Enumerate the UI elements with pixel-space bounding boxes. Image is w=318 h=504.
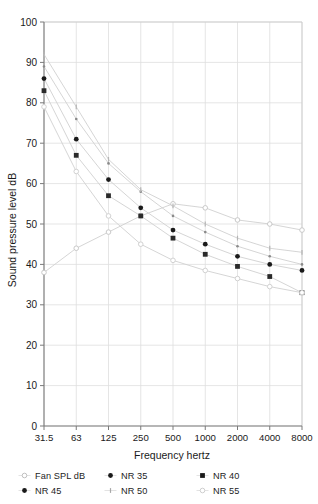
x-tick-labels: 31.5631252505001000200040008000 (35, 432, 313, 443)
y-tick-label: 100 (20, 17, 37, 28)
data-point-marker (172, 215, 175, 218)
legend-marker-icon (104, 471, 117, 480)
data-point-marker (42, 270, 47, 275)
data-point-marker (200, 473, 205, 478)
y-tick-label: 60 (26, 178, 38, 189)
legend-item-label: Fan SPL dB (35, 471, 85, 481)
data-point-marker (267, 222, 272, 227)
data-point-marker (106, 177, 111, 182)
y-tick-label: 70 (26, 138, 38, 149)
legend-item[interactable]: NR 45 (18, 483, 104, 498)
data-point-marker (203, 242, 208, 247)
data-point-marker (203, 252, 208, 257)
data-point-marker (74, 246, 79, 251)
x-tick-label: 500 (165, 432, 181, 443)
y-tick-label: 90 (26, 57, 38, 68)
data-point-marker (42, 105, 47, 110)
legend-item-label: NR 35 (121, 471, 148, 481)
data-point-marker (203, 206, 208, 211)
data-point-marker (74, 137, 79, 142)
x-axis-label: Frequency hertz (134, 449, 210, 461)
y-tick-label: 0 (31, 421, 37, 432)
data-point-marker (22, 488, 27, 493)
data-point-marker (235, 218, 240, 223)
data-point-marker (235, 264, 240, 269)
x-tick-label: 63 (71, 432, 82, 443)
legend-item-label: NR 50 (121, 486, 148, 496)
legend-item[interactable]: NR 35 (104, 468, 196, 483)
y-axis-label: Sound pressure level dB (6, 173, 18, 287)
data-point-marker (42, 76, 47, 81)
data-point-marker (22, 473, 27, 478)
y-tick-label: 30 (26, 299, 38, 310)
data-point-marker (138, 242, 143, 247)
chart-gridlines (44, 22, 302, 426)
legend-item[interactable]: NR 40 (196, 468, 288, 483)
legend-marker-icon (18, 486, 31, 495)
legend-item[interactable]: NR 50 (104, 483, 196, 498)
legend-marker-icon (104, 486, 117, 495)
data-point-marker (200, 488, 205, 493)
data-point-marker (138, 214, 143, 219)
x-tick-label: 125 (100, 432, 116, 443)
data-point-marker (75, 118, 78, 121)
y-tick-label: 10 (26, 380, 38, 391)
x-tick-marks (44, 426, 302, 430)
noise-rating-chart: 1009080706050403020100 31.56312525050010… (0, 0, 318, 504)
data-point-marker (267, 274, 272, 279)
x-tick-label: 4000 (259, 432, 280, 443)
data-point-marker (300, 228, 305, 233)
legend-marker-icon (196, 471, 209, 480)
data-point-marker (235, 254, 240, 259)
chart-plot-area: 1009080706050403020100 31.56312525050010… (0, 0, 318, 504)
data-point-marker (204, 231, 207, 234)
y-tick-label: 40 (26, 259, 38, 270)
x-tick-label: 1000 (195, 432, 216, 443)
y-tick-labels: 1009080706050403020100 (20, 17, 37, 432)
x-tick-label: 31.5 (35, 432, 54, 443)
data-point-marker (171, 236, 176, 241)
data-point-marker (106, 193, 111, 198)
data-point-marker (106, 214, 111, 219)
x-tick-label: 8000 (291, 432, 312, 443)
data-point-marker (268, 255, 271, 258)
x-tick-label: 250 (133, 432, 149, 443)
y-tick-label: 50 (26, 219, 38, 230)
data-point-marker (301, 263, 304, 266)
y-tick-marks (40, 22, 44, 426)
data-point-marker (74, 169, 79, 174)
data-point-marker (108, 473, 113, 478)
legend-marker-icon (196, 486, 209, 495)
x-tick-label: 2000 (227, 432, 248, 443)
data-point-marker (267, 284, 272, 289)
data-point-marker (235, 276, 240, 281)
data-point-marker (107, 162, 110, 165)
legend-marker-icon (18, 471, 31, 480)
legend-item[interactable]: Fan SPL dB (18, 468, 104, 483)
y-tick-label: 80 (26, 97, 38, 108)
data-point-marker (42, 88, 47, 93)
data-point-marker (300, 268, 305, 273)
y-tick-label: 20 (26, 340, 38, 351)
data-point-marker (236, 245, 239, 248)
data-point-marker (138, 205, 143, 210)
data-point-marker (171, 228, 176, 233)
legend-item-label: NR 55 (213, 486, 240, 496)
data-point-marker (267, 262, 272, 267)
data-point-marker (171, 258, 176, 263)
legend-item[interactable]: NR 55 (196, 483, 288, 498)
data-point-marker (74, 153, 79, 158)
data-point-marker (106, 230, 111, 235)
data-point-marker (300, 290, 305, 295)
data-point-marker (203, 268, 208, 273)
legend-item-label: NR 45 (35, 486, 62, 496)
chart-legend: Fan SPL dBNR 35NR 40NR 45NR 50NR 55 (18, 468, 306, 498)
data-point-marker (43, 65, 46, 68)
legend-item-label: NR 40 (213, 471, 240, 481)
